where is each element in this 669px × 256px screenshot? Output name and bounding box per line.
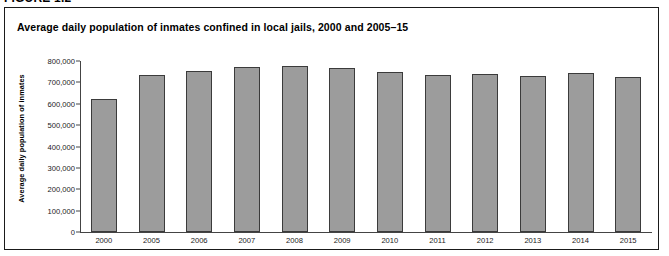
y-axis-tick-label: 100,000 <box>27 206 75 215</box>
bar <box>186 71 212 232</box>
bar <box>282 66 308 232</box>
x-axis-tick-label: 2012 <box>477 236 494 245</box>
y-axis-title-text: Average daily population of inmates <box>17 74 26 203</box>
bars-layer <box>80 8 652 250</box>
bar <box>425 75 451 232</box>
y-axis-tick-label: 700,000 <box>27 78 75 87</box>
y-axis-tick-label: 300,000 <box>27 163 75 172</box>
bar <box>568 73 594 232</box>
bar <box>377 72 403 232</box>
bar <box>91 99 117 232</box>
x-axis-tick-labels: 2000200520062007200820092010201120122013… <box>80 236 652 250</box>
y-axis-tick-label: 800,000 <box>27 57 75 66</box>
x-axis-tick-label: 2010 <box>381 236 398 245</box>
x-axis-tick-label: 2005 <box>143 236 160 245</box>
bar <box>139 75 165 232</box>
y-axis-tick-labels: 800,000700,000600,000500,000400,000300,0… <box>27 8 75 250</box>
bar-chart-plot: Average daily population of inmates 800,… <box>5 8 659 250</box>
figure-box: Average daily population of inmates conf… <box>4 7 659 250</box>
x-axis-tick-label: 2011 <box>429 236 445 245</box>
y-axis-tick-label: 400,000 <box>27 142 75 151</box>
bar <box>520 76 546 232</box>
x-axis-tick-label: 2015 <box>620 236 637 245</box>
y-axis-tick-label: 0 <box>27 228 75 237</box>
figure-label: FIGURE 1.2 <box>4 0 71 5</box>
x-axis-tick-label: 2009 <box>334 236 351 245</box>
y-axis-tick-label: 200,000 <box>27 185 75 194</box>
bar <box>472 74 498 232</box>
x-axis-tick-label: 2014 <box>572 236 589 245</box>
x-axis-tick-label: 2007 <box>238 236 255 245</box>
bar <box>329 68 355 232</box>
x-axis-tick-label: 2000 <box>95 236 112 245</box>
x-axis-tick-label: 2008 <box>286 236 303 245</box>
x-axis-tick-label: 2013 <box>524 236 541 245</box>
x-axis-tick-label: 2006 <box>191 236 208 245</box>
y-axis-tick-label: 500,000 <box>27 121 75 130</box>
y-axis-tick-label: 600,000 <box>27 99 75 108</box>
bar <box>234 67 260 232</box>
bar <box>615 77 641 232</box>
